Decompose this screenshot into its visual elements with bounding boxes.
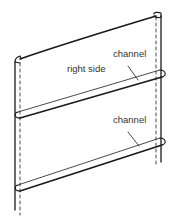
top-right-fold [154,12,161,17]
channel-2 [15,138,165,191]
fabric-channel-diagram: right side channel channel [0,0,179,224]
label-right-side: right side [67,64,106,74]
label-channel-bottom: channel [113,115,146,125]
fabric-illustration [0,0,179,224]
label-channel-top: channel [113,49,146,59]
channel-1 [15,70,165,118]
leader-line-channel-2 [128,132,139,146]
